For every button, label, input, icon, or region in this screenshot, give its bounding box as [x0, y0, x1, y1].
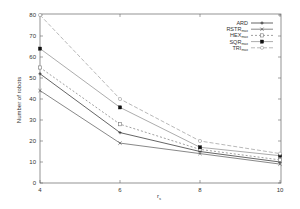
y-tick-label: 30	[29, 117, 36, 123]
svg-text:TRImax: TRImax	[233, 45, 249, 52]
x-tick-label: 8	[198, 187, 202, 193]
legend-item-tri: TRImax	[233, 45, 274, 52]
series-ard	[38, 72, 281, 163]
y-tick-label: 10	[29, 159, 36, 165]
x-tick-label: 4	[38, 187, 42, 193]
y-tick-label: 40	[29, 96, 36, 102]
x-tick-label: 6	[118, 187, 122, 193]
y-tick-label: 60	[29, 54, 36, 60]
legend: ARDRSTRmaxHEXmaxSQRmaxTRImax	[226, 20, 273, 52]
y-tick-label: 20	[29, 138, 36, 144]
y-tick-label: 70	[29, 33, 36, 39]
x-axis-label: rs	[157, 193, 161, 201]
line-chart: 01020304050607080 46810 ARDRSTRmaxHEXmax…	[0, 0, 300, 209]
y-tick-label: 50	[29, 75, 36, 81]
legend-item-ard: ARD	[236, 20, 273, 26]
series-sqr	[38, 47, 281, 157]
y-axis-label: Number of robots	[16, 77, 22, 123]
y-tick-label: 0	[33, 180, 37, 186]
y-tick-label: 80	[29, 12, 36, 18]
x-tick-label: 10	[277, 187, 284, 193]
svg-text:ARD: ARD	[236, 20, 248, 26]
